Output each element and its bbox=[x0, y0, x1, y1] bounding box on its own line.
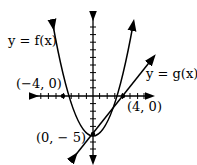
point-0-neg5 bbox=[91, 132, 95, 136]
label-neg4-0: (−4, 0) bbox=[16, 76, 62, 91]
label-4-0: (4, 0) bbox=[127, 99, 162, 114]
point-neg4-0 bbox=[61, 94, 65, 98]
label-g: y = g(x) bbox=[145, 66, 197, 81]
point-4-0 bbox=[121, 94, 125, 98]
function-graph: y = f(x) y = g(x) (−4, 0) (4, 0) (0, − 5… bbox=[0, 0, 197, 165]
label-f: y = f(x) bbox=[7, 33, 57, 48]
label-0-neg5: (0, − 5) bbox=[36, 130, 86, 145]
